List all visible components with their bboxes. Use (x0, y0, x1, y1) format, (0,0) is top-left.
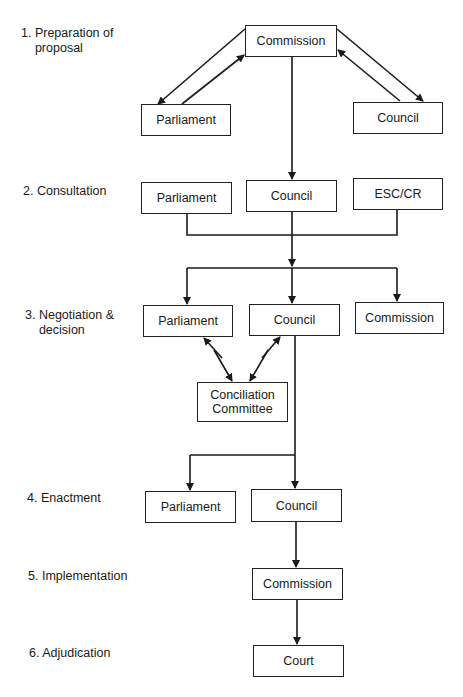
node-parliament-decision: Parliament (143, 305, 233, 337)
node-council-consultation: Council (246, 180, 337, 212)
arrow-commission-to-parliament (158, 29, 245, 104)
node-council-enactment: Council (251, 489, 342, 522)
stage-6-label: 6. Adjudication (29, 646, 110, 661)
stage-3-label: 3. Negotiation & decision (25, 308, 114, 338)
arrow-commission-to-council (337, 29, 423, 101)
node-council-decision: Council (249, 304, 340, 336)
node-parliament-consultation: Parliament (141, 182, 232, 214)
node-esc-cr-consultation: ESC/CR (353, 178, 443, 210)
arrow-parliament-to-commission (182, 55, 244, 104)
node-conciliation-committee: Conciliation Committee (197, 382, 288, 422)
node-court-adjudication: Court (253, 645, 344, 677)
arrow-council-to-commission (338, 50, 400, 101)
stage-1-label: 1. Preparation of proposal (21, 26, 113, 56)
node-council-proposal: Council (353, 102, 443, 134)
stage-2-label: 2. Consultation (23, 184, 106, 199)
stage-5-label: 5. Implementation (28, 569, 127, 584)
node-commission-decision: Commission (355, 302, 444, 334)
node-parliament-proposal: Parliament (141, 104, 231, 136)
node-commission-implementation: Commission (252, 568, 343, 600)
node-commission-proposal: Commission (245, 25, 337, 57)
stage-4-label: 4. Enactment (27, 491, 101, 506)
node-parliament-enactment: Parliament (145, 491, 236, 523)
